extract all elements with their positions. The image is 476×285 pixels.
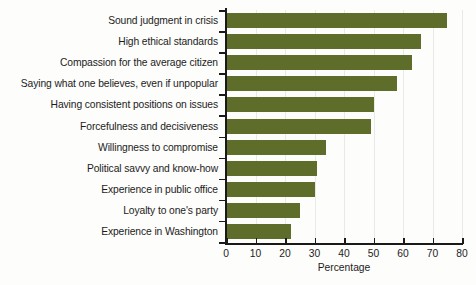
y-axis-ticks: [219, 10, 226, 242]
x-axis-tick: [315, 238, 317, 244]
bar: [226, 182, 315, 197]
gridline-80: [462, 10, 463, 242]
y-axis-label: Forcefulness and decisiveness: [80, 119, 218, 134]
x-axis-tick-label: 80: [456, 247, 467, 260]
x-axis-tick-label: 60: [397, 247, 408, 260]
y-axis-category-labels: Sound judgment in crisisHigh ethical sta…: [0, 10, 222, 242]
bar: [226, 119, 371, 134]
y-axis-label: Willingness to compromise: [98, 140, 218, 155]
y-axis-tick: [219, 10, 226, 12]
y-axis-tick: [219, 115, 226, 117]
x-axis-tick: [285, 238, 287, 244]
bar: [226, 203, 300, 218]
y-axis-tick: [219, 179, 226, 181]
x-axis-tick-label: 20: [279, 247, 290, 260]
x-axis-tick-labels: 01020304050607080: [226, 247, 462, 261]
y-axis-tick: [219, 52, 226, 54]
bar-series: [226, 10, 462, 242]
y-axis-tick: [219, 73, 226, 75]
x-axis-tick: [433, 238, 435, 244]
y-axis-tick: [219, 200, 226, 202]
y-axis-tick: [219, 158, 226, 160]
y-axis-tick: [219, 94, 226, 96]
x-axis-tick: [256, 238, 258, 244]
y-axis-label: Loyalty to one's party: [123, 203, 218, 218]
x-axis-tick: [226, 238, 228, 244]
x-axis-tick-label: 50: [368, 247, 379, 260]
x-axis-tick-label: 30: [309, 247, 320, 260]
x-axis-tick: [344, 238, 346, 244]
bar: [226, 140, 326, 155]
bar: [226, 55, 412, 70]
y-axis-label: Saying what one believes, even if unpopu…: [21, 76, 218, 91]
y-axis-label: Compassion for the average citizen: [60, 55, 218, 70]
horizontal-bar-chart: Sound judgment in crisisHigh ethical sta…: [0, 0, 476, 285]
bar: [226, 224, 291, 239]
plot-area: [226, 10, 462, 242]
x-axis-ticks: [226, 238, 462, 244]
y-axis-label: Political savvy and know-how: [87, 161, 218, 176]
y-axis-label: Sound judgment in crisis: [108, 13, 218, 28]
x-axis-tick-label: 40: [338, 247, 349, 260]
bar: [226, 76, 397, 91]
x-axis-tick-label: 0: [223, 247, 229, 260]
bar: [226, 161, 317, 176]
y-axis-tick: [219, 221, 226, 223]
bar: [226, 34, 421, 49]
x-axis-tick-label: 70: [427, 247, 438, 260]
bar: [226, 13, 447, 28]
y-axis-tick: [219, 137, 226, 139]
x-axis-tick: [462, 238, 464, 244]
y-axis-label: Experience in Washington: [101, 224, 218, 239]
y-axis-label: Experience in public office: [101, 182, 218, 197]
y-axis-label: High ethical standards: [118, 34, 218, 49]
x-axis-tick-label: 10: [250, 247, 261, 260]
x-axis-tick: [403, 238, 405, 244]
bar: [226, 97, 374, 112]
x-axis-tick: [374, 238, 376, 244]
y-axis-label: Having consistent positions on issues: [51, 97, 218, 112]
x-axis-title: Percentage: [226, 262, 462, 273]
y-axis-tick: [219, 31, 226, 33]
